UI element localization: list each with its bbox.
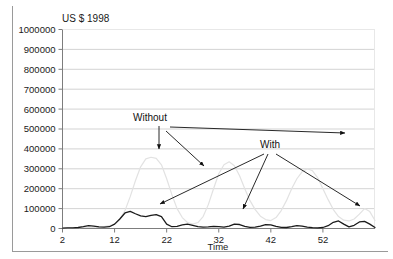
y-axis: 0100000200000300000400000500000600000700… [19,24,63,234]
y-tick-label: 600000 [24,104,56,115]
x-tick-label: 42 [266,234,277,245]
y-tick-label: 900000 [24,44,56,55]
y-tick-label: 700000 [24,84,56,95]
chart-figure: 0100000200000300000400000500000600000700… [0,0,393,259]
x-tick-label: 2 [60,234,65,245]
annotation-label: Without [133,112,167,123]
y-tick-label: 200000 [24,183,56,194]
y-tick-label: 300000 [24,163,56,174]
y-tick-label: 400000 [24,143,56,154]
x-tick-label: 22 [161,234,172,245]
y-tick-label: 800000 [24,64,56,75]
y-tick-label: 500000 [24,123,56,134]
x-axis-title: Time [208,241,229,252]
x-tick-label: 52 [318,234,329,245]
y-tick-label: 1000000 [19,24,56,35]
chart-title: US $ 1998 [62,13,110,24]
y-tick-label: 100000 [24,203,56,214]
y-tick-label: 0 [50,223,55,234]
x-axis: 21222324252 [60,229,328,245]
x-tick-label: 12 [109,234,120,245]
chart-canvas: 0100000200000300000400000500000600000700… [0,0,393,259]
annotation-label: With [260,139,280,150]
